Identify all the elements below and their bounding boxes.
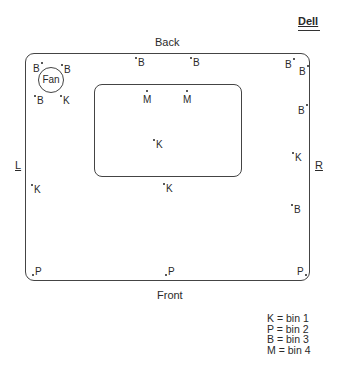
marker-k: K bbox=[156, 139, 163, 150]
marker-k: K bbox=[166, 183, 173, 194]
legend-item-b: B = bin 3 bbox=[267, 334, 310, 345]
legend-item-k: K = bin 1 bbox=[267, 313, 310, 324]
marker-dot bbox=[293, 58, 295, 60]
marker-m: M bbox=[143, 94, 151, 105]
marker-dot bbox=[165, 274, 167, 276]
fan-circle: Fan bbox=[38, 67, 64, 93]
marker-b: B bbox=[37, 95, 44, 106]
marker-m: M bbox=[183, 94, 191, 105]
marker-dot bbox=[153, 139, 155, 141]
marker-dot bbox=[306, 104, 308, 106]
motherboard-region bbox=[94, 84, 242, 177]
marker-b: B bbox=[193, 57, 200, 68]
marker-b: B bbox=[33, 63, 40, 74]
marker-b: B bbox=[298, 105, 305, 116]
side-label-right: R bbox=[315, 159, 323, 171]
marker-dot bbox=[32, 274, 34, 276]
marker-dot bbox=[305, 274, 307, 276]
marker-dot bbox=[163, 183, 165, 185]
marker-dot bbox=[186, 90, 188, 92]
marker-b: B bbox=[299, 66, 306, 77]
marker-p: P bbox=[35, 266, 42, 277]
marker-dot bbox=[34, 95, 36, 97]
marker-p: P bbox=[297, 266, 304, 277]
legend: K = bin 1 P = bin 2 B = bin 3 M = bin 4 bbox=[267, 313, 310, 355]
marker-p: P bbox=[168, 266, 175, 277]
marker-k: K bbox=[63, 95, 70, 106]
side-label-back: Back bbox=[155, 36, 179, 48]
marker-dot bbox=[291, 204, 293, 206]
legend-item-m: M = bin 4 bbox=[267, 345, 310, 356]
brand-underline bbox=[298, 30, 320, 31]
marker-dot bbox=[307, 65, 309, 67]
marker-dot bbox=[41, 62, 43, 64]
brand-label: Dell bbox=[298, 15, 318, 27]
marker-b: B bbox=[285, 59, 292, 70]
side-label-front: Front bbox=[157, 289, 183, 301]
marker-dot bbox=[135, 57, 137, 59]
marker-dot bbox=[146, 90, 148, 92]
side-label-left: L bbox=[15, 159, 21, 171]
marker-dot bbox=[60, 95, 62, 97]
marker-dot bbox=[61, 64, 63, 66]
marker-k: K bbox=[34, 184, 41, 195]
marker-dot bbox=[31, 184, 33, 186]
marker-b: B bbox=[138, 57, 145, 68]
marker-b: B bbox=[294, 204, 301, 215]
fan-label: Fan bbox=[39, 74, 63, 85]
marker-dot bbox=[190, 57, 192, 59]
marker-k: K bbox=[295, 152, 302, 163]
marker-dot bbox=[292, 152, 294, 154]
marker-b: B bbox=[64, 64, 71, 75]
